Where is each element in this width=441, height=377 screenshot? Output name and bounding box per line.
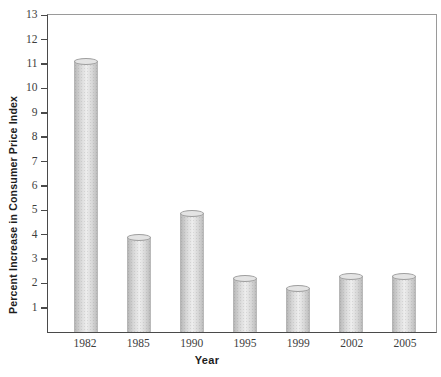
y-tick-label: 11 bbox=[26, 58, 37, 70]
y-tick: 5 bbox=[41, 210, 47, 212]
bar-1995 bbox=[233, 278, 257, 332]
y-tick: 11 bbox=[41, 63, 47, 65]
y-tick-label: 2 bbox=[32, 278, 38, 290]
y-tick-label: 13 bbox=[26, 10, 38, 22]
x-tick-label: 1985 bbox=[126, 337, 150, 351]
bar-1985 bbox=[127, 237, 151, 332]
y-tick-label: 9 bbox=[32, 107, 38, 119]
x-tick-label: 1990 bbox=[180, 337, 204, 351]
bar-1999 bbox=[286, 288, 310, 332]
x-tick-label: 2002 bbox=[340, 337, 364, 351]
y-tick: 4 bbox=[41, 234, 47, 236]
y-tick-label: 5 bbox=[32, 205, 38, 217]
y-tick-label: 1 bbox=[32, 302, 38, 314]
y-tick: 10 bbox=[41, 88, 47, 90]
y-axis-title: Percent Increase in Consumer Price Index bbox=[6, 95, 20, 315]
y-tick-label: 12 bbox=[26, 34, 38, 46]
cpi-bar-chart-figure: Percent Increase in Consumer Price Index… bbox=[0, 0, 441, 377]
x-axis-tick-labels: 1982198519901995199920022005 bbox=[73, 337, 417, 351]
y-tick: 6 bbox=[41, 185, 47, 187]
y-tick-label: 6 bbox=[32, 180, 38, 192]
y-tick-label: 10 bbox=[26, 83, 38, 95]
y-tick-label: 4 bbox=[32, 229, 38, 241]
y-tick-label: 8 bbox=[32, 131, 38, 143]
x-tick-label: 1982 bbox=[73, 337, 97, 351]
y-tick: 9 bbox=[41, 112, 47, 114]
y-tick-label: 7 bbox=[32, 156, 38, 168]
bars-container bbox=[74, 15, 416, 332]
y-tick: 12 bbox=[41, 39, 47, 41]
x-tick-label: 1995 bbox=[233, 337, 257, 351]
y-tick: 13 bbox=[41, 15, 47, 17]
x-tick-label: 2005 bbox=[393, 337, 417, 351]
x-tick-label: 1999 bbox=[286, 337, 310, 351]
y-tick-label: 3 bbox=[32, 253, 38, 265]
bar-1990 bbox=[180, 213, 204, 332]
x-axis-title: Year bbox=[195, 354, 219, 366]
bar-2005 bbox=[392, 276, 416, 332]
y-tick: 7 bbox=[41, 161, 47, 163]
y-tick: 2 bbox=[41, 283, 47, 285]
plot-area: 12345678910111213 bbox=[47, 14, 437, 333]
y-tick: 3 bbox=[41, 258, 47, 260]
y-tick: 1 bbox=[41, 307, 47, 309]
y-tick: 8 bbox=[41, 136, 47, 138]
bar-1982 bbox=[74, 61, 98, 332]
bar-2002 bbox=[339, 276, 363, 332]
